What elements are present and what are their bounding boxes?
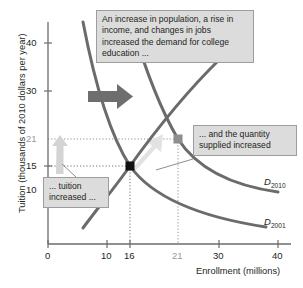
equilibrium-marker-2010 (174, 135, 183, 144)
tuition-rise-arrow (52, 135, 68, 174)
curve-label-demand-2001: D2001 (264, 216, 286, 229)
xtick-label-30: 30 (213, 251, 224, 261)
ytick-label-21: 21 (26, 134, 37, 144)
xtick-label-10: 10 (101, 251, 112, 261)
demand-shift-arrow (88, 84, 133, 109)
callout-quantity-supplied: ... and the quantity supplied increased (193, 125, 297, 156)
ytick-label-30: 30 (26, 86, 37, 96)
xtick-label-0: 0 (45, 251, 50, 261)
curve-label-demand-2001-base: D (264, 216, 271, 227)
x-axis-title: Enrollment (millions) (196, 266, 280, 276)
xtick-label-21: 21 (172, 251, 183, 261)
xtick-label-16: 16 (124, 251, 135, 261)
ytick-label-10: 10 (26, 185, 37, 195)
callout-tuition-increased: ... tuition increased ... (43, 177, 109, 208)
ytick-label-15: 15 (26, 161, 37, 171)
callout-demand-increase: An increase in population, a rise in inc… (96, 10, 254, 63)
leader-line-quantity (156, 159, 193, 170)
figure-supply-demand-college-tuition: Tuition (thousands of 2010 dollars per y… (0, 0, 303, 288)
quantity-rise-arrow (130, 134, 163, 172)
xtick-label-40: 40 (272, 251, 283, 261)
curve-label-demand-2010: D2010 (264, 176, 286, 189)
curve-label-demand-2010-sub: 2010 (271, 182, 286, 189)
ytick-label-40: 40 (26, 38, 37, 48)
curve-label-demand-2001-sub: 2001 (271, 222, 286, 229)
equilibrium-marker-2001 (126, 162, 135, 171)
curve-label-demand-2010-base: D (264, 176, 271, 187)
